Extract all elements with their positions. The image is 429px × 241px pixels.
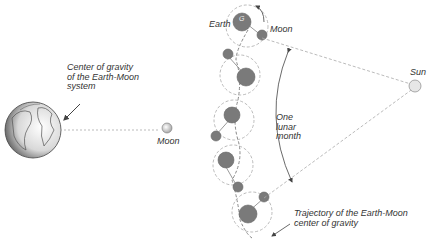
moon-icon (162, 123, 172, 133)
earth-globe-icon (5, 102, 61, 158)
earth-label: Earth (209, 20, 231, 30)
trajectory-arrow (272, 224, 290, 236)
trajectory-label: Trajectory of the Earth-Moon center of g… (294, 209, 408, 228)
lunar-month-label: One lunar month (276, 113, 301, 142)
left-moon-label: Moon (157, 137, 180, 147)
lunar-month-line: month (276, 132, 301, 142)
sun-label: Sun (410, 68, 426, 78)
cog-label: Center of gravity of the Earth-Moon syst… (67, 63, 139, 92)
diagram-canvas (0, 0, 429, 241)
right-moon-label: Moon (270, 25, 293, 35)
sun-icon (409, 80, 421, 92)
g-label: G (239, 14, 244, 24)
orbit-direction-arrow (256, 6, 264, 22)
trajectory-label-line: center of gravity (294, 219, 408, 229)
sun-line-bottom (264, 88, 414, 198)
cog-label-line: system (67, 82, 139, 92)
cog-arrow (64, 104, 80, 120)
